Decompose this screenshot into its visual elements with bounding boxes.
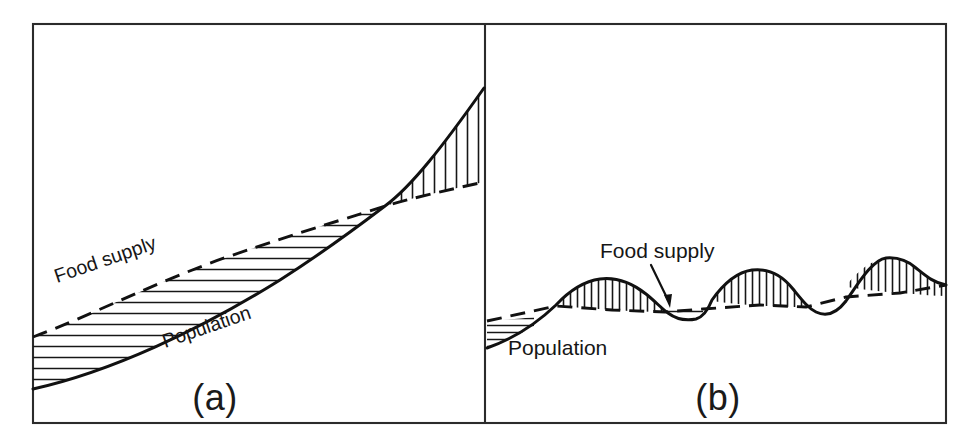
- panel-a: Food supply Population (a): [30, 80, 490, 418]
- panel-b-caption: (b): [695, 377, 741, 418]
- panel-b-food-supply-label: Food supply: [600, 239, 715, 262]
- figure-frame: [33, 24, 946, 423]
- panel-b: Food supply Population (b): [484, 239, 952, 418]
- figure-root: Food supply Population (a): [0, 0, 969, 447]
- panel-a-food-supply-label: Food supply: [51, 231, 159, 286]
- figure-canvas: Food supply Population (a): [0, 0, 969, 447]
- panel-a-caption: (a): [192, 377, 238, 418]
- panel-b-population-label: Population: [508, 336, 607, 359]
